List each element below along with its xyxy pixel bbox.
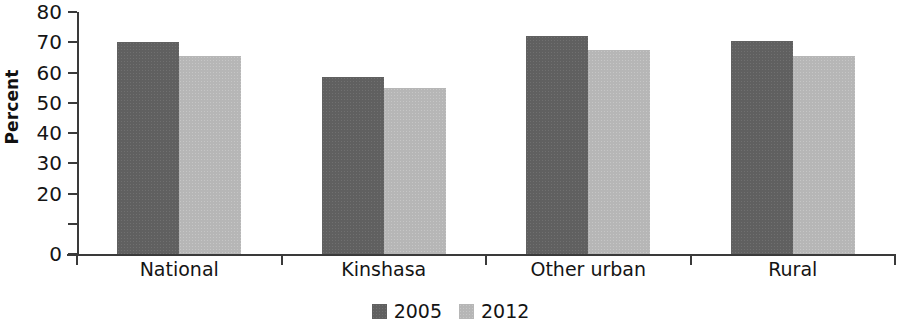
bar-chart-figure: Percent 807060504030200 NationalKinshasa… (0, 0, 901, 328)
bar (731, 41, 793, 254)
x-axis-category-labels: NationalKinshasaOther urbanRural (77, 258, 895, 288)
bar (384, 88, 446, 254)
y-axis-tick (68, 132, 77, 134)
y-axis-tick (68, 162, 77, 164)
bar-group (526, 12, 650, 254)
bar (793, 56, 855, 254)
y-axis-tick-label: 40 (16, 123, 62, 143)
bar-group (731, 12, 855, 254)
legend-label: 2012 (481, 302, 529, 321)
legend-swatch-icon (459, 304, 474, 319)
y-axis-tick-label: 70 (16, 32, 62, 52)
chart-legend: 20052012 (0, 298, 901, 324)
y-axis-tick (68, 11, 77, 13)
legend-item[interactable]: 2012 (459, 302, 529, 321)
y-axis-tick-label: 50 (16, 93, 62, 113)
legend-label: 2005 (394, 302, 442, 321)
y-axis-tick-label: 0 (16, 244, 62, 264)
x-axis-category-label: Kinshasa (282, 258, 487, 280)
y-axis-tick-label: 20 (16, 184, 62, 204)
bar (588, 50, 650, 254)
x-axis-category-label: National (77, 258, 282, 280)
bars-container (77, 12, 895, 254)
x-axis-category-label: Rural (691, 258, 896, 280)
x-axis-line (67, 254, 896, 256)
y-axis-tick (68, 41, 77, 43)
legend-swatch-icon (372, 304, 387, 319)
y-axis-tick (68, 193, 77, 195)
bar-group (322, 12, 446, 254)
y-axis-tick (68, 223, 77, 225)
bar (322, 77, 384, 254)
bar (179, 56, 241, 254)
y-axis-tick-labels: 807060504030200 (16, 12, 62, 254)
legend-item[interactable]: 2005 (372, 302, 442, 321)
y-axis-tick-label: 60 (16, 63, 62, 83)
y-axis-tick (68, 72, 77, 74)
bar-group (117, 12, 241, 254)
y-axis-tick (68, 253, 77, 255)
bar (117, 42, 179, 254)
x-axis-category-label: Other urban (486, 258, 691, 280)
bar (526, 36, 588, 254)
y-axis-tick (68, 102, 77, 104)
plot-area (77, 12, 895, 254)
y-axis-tick-label: 30 (16, 153, 62, 173)
y-axis-tick-label: 80 (16, 2, 62, 22)
